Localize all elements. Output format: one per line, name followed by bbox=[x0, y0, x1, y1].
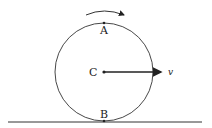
label-a: A bbox=[99, 24, 109, 37]
label-b: B bbox=[100, 108, 108, 121]
rotation-arrow-icon bbox=[86, 11, 124, 15]
rolling-wheel-diagram: A C B v bbox=[0, 0, 212, 128]
label-v: v bbox=[168, 67, 173, 77]
label-c: C bbox=[89, 66, 97, 79]
